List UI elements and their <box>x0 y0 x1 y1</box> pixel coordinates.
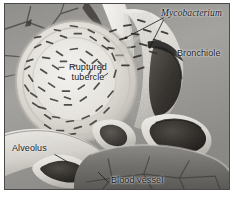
illustration-canvas <box>5 4 229 189</box>
illustration-plate: Mycobacterium Bronchiole Ruptured tuberc… <box>4 3 230 190</box>
paper-grain <box>5 4 229 189</box>
illustration-figure: Mycobacterium Bronchiole Ruptured tuberc… <box>0 0 234 200</box>
